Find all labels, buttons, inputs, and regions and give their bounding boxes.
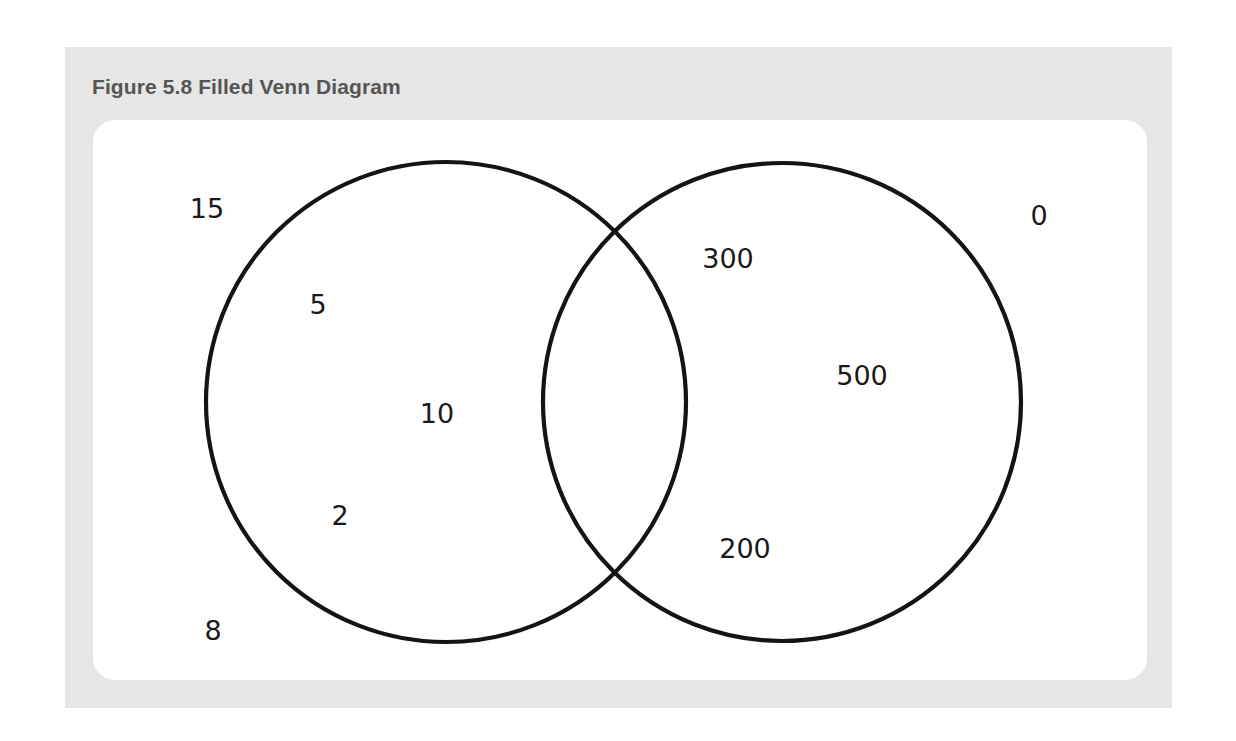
label-left-only-lower: 2 (331, 502, 348, 529)
label-outside-top-left: 15 (190, 195, 224, 222)
figure-title: Figure 5.8 Filled Venn Diagram (92, 75, 401, 99)
figure-panel: Figure 5.8 Filled Venn Diagram (65, 47, 1172, 708)
label-outside-bottom-left: 8 (204, 617, 221, 644)
label-left-only-upper: 5 (309, 291, 326, 318)
label-right-only-lower: 200 (719, 535, 771, 562)
label-outside-top-right: 0 (1030, 202, 1047, 229)
label-right-only-center: 500 (836, 362, 888, 389)
label-left-only-center: 10 (420, 400, 454, 427)
label-right-only-upper: 300 (702, 245, 754, 272)
diagram-card (93, 120, 1147, 680)
